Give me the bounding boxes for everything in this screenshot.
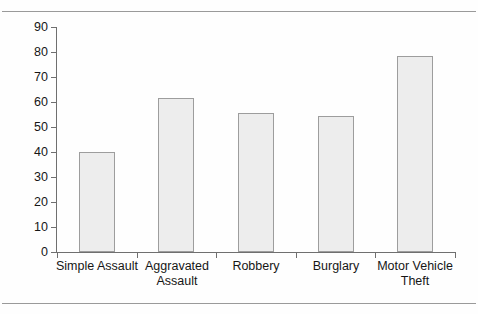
y-tick-label: 20 [4, 196, 48, 209]
y-tick-label: 0 [4, 246, 48, 259]
y-tick-label-wrap: 40 [0, 146, 48, 159]
y-tick-mark [51, 152, 57, 153]
x-tick-mark [296, 252, 297, 258]
x-axis-label-line: Motor Vehicle [368, 259, 462, 274]
y-tick-label-wrap: 70 [0, 71, 48, 84]
bar [318, 116, 354, 252]
x-tick-mark [137, 252, 138, 258]
y-tick-label-wrap: 60 [0, 96, 48, 109]
y-tick-label: 80 [4, 46, 48, 59]
y-tick-mark [51, 127, 57, 128]
y-tick-mark [51, 52, 57, 53]
y-tick-mark [51, 102, 57, 103]
y-tick-label: 90 [4, 21, 48, 34]
bar [238, 113, 274, 252]
x-tick-mark [455, 252, 456, 258]
y-tick-label-wrap: 50 [0, 121, 48, 134]
x-tick-mark [216, 252, 217, 258]
bar [397, 56, 433, 252]
y-tick-label-wrap: 30 [0, 171, 48, 184]
y-tick-label-wrap: 90 [0, 21, 48, 34]
y-tick-label-wrap: 0 [0, 246, 48, 259]
y-tick-mark [51, 202, 57, 203]
y-tick-label: 40 [4, 146, 48, 159]
bar [79, 152, 115, 252]
x-axis-line [56, 252, 456, 253]
y-axis-line [56, 27, 57, 253]
y-tick-mark [51, 177, 57, 178]
x-tick-mark [375, 252, 376, 258]
bar-chart: 0102030405060708090 Simple AssaultAggrav… [0, 0, 478, 314]
y-tick-mark [51, 27, 57, 28]
y-tick-label-wrap: 20 [0, 196, 48, 209]
y-tick-label: 60 [4, 96, 48, 109]
x-axis-label-line: Theft [368, 274, 462, 289]
bar [158, 98, 194, 252]
y-tick-label: 10 [4, 221, 48, 234]
y-tick-label-wrap: 10 [0, 221, 48, 234]
y-tick-label-wrap: 80 [0, 46, 48, 59]
y-tick-mark [51, 77, 57, 78]
x-axis-label: Motor VehicleTheft [368, 259, 462, 289]
y-tick-label: 30 [4, 171, 48, 184]
y-tick-label: 50 [4, 121, 48, 134]
x-axis-label-line: Assault [130, 274, 224, 289]
y-tick-mark [51, 227, 57, 228]
x-tick-mark [57, 252, 58, 258]
y-tick-label: 70 [4, 71, 48, 84]
page-canvas: 0102030405060708090 Simple AssaultAggrav… [0, 0, 478, 314]
